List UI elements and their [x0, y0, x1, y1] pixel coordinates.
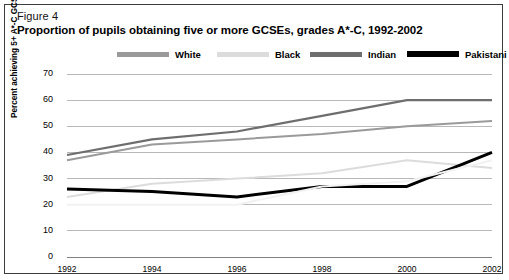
legend-swatch-black: [217, 52, 269, 57]
series-line-bangladeshi: [67, 160, 492, 204]
figure-panel: Figure 4 Proportion of pupils obtaining …: [4, 4, 503, 274]
legend-item-pakistani: Pakistani: [407, 46, 507, 62]
legend-item-white: White: [117, 46, 201, 62]
legend-label-indian: Indian: [368, 49, 396, 60]
legend-label-black: Black: [275, 49, 300, 60]
figure-title: Proportion of pupils obtaining five or m…: [17, 24, 423, 36]
legend-item-indian: Indian: [310, 46, 396, 62]
legend-label-white: White: [175, 49, 201, 60]
chart-lines: [5, 63, 504, 273]
legend-swatch-indian: [310, 52, 362, 57]
series-line-indian: [67, 100, 492, 155]
legend-swatch-pakistani: [407, 51, 459, 57]
legend-swatch-white: [117, 52, 169, 57]
series-line-pakistani: [67, 152, 492, 197]
legend-item-black: Black: [217, 46, 300, 62]
legend-label-pakistani: Pakistani: [465, 49, 507, 60]
series-line-white: [67, 121, 492, 160]
figure-label: Figure 4: [17, 10, 58, 22]
chart-plot-area: Percent achieving 5+ A*-C GCSEs 70605040…: [5, 63, 504, 273]
chart-legend: White Black Indian Pakistani Bangladeshi: [5, 46, 504, 62]
